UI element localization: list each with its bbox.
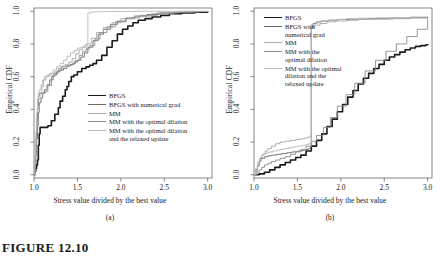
legend-label: MM with the optimal dilation and the rel… [285, 65, 342, 88]
legend-item: BFGS with numerical grad [88, 101, 187, 109]
figure-container: Empirical CDF 0.00.20.40.60.81.0 1.01.52… [0, 0, 440, 262]
legend-line-swatch [264, 17, 282, 18]
subcaption-a: (a) [0, 213, 220, 222]
legend-label: BFGS with numerical grad [109, 101, 180, 109]
legend-label: BFGS [109, 92, 126, 100]
legend-item: MM [88, 110, 187, 118]
legend-item: MM with the optimal dilation and the rel… [88, 127, 187, 143]
legend-label: BFGS with numerical grad [285, 23, 325, 39]
legend-item: BFGS with numerical grad [264, 23, 342, 39]
chart-panel-a: Empirical CDF 0.00.20.40.60.81.0 1.01.52… [0, 0, 220, 232]
legend-a: BFGSBFGS with numerical gradMMMM with th… [88, 92, 187, 144]
legend-line-swatch [88, 104, 106, 105]
legend-label: MM [109, 110, 121, 118]
legend-line-swatch [264, 26, 282, 27]
legend-line-swatch [264, 42, 282, 43]
legend-label: MM [285, 39, 297, 47]
legend-item: MM with the optimal dilation and the rel… [264, 65, 342, 88]
legend-label: MM with the optimal dilation [285, 48, 327, 64]
subcaption-b: (b) [220, 213, 440, 222]
legend-label: BFGS [285, 14, 302, 22]
figure-number: FIGURE 12.10 [2, 240, 89, 256]
x-axis-label-a: Stress value divided by the best value [0, 196, 220, 205]
legend-b: BFGSBFGS with numerical gradMMMM with th… [264, 14, 342, 89]
legend-line-swatch [264, 51, 282, 52]
legend-label: MM with the optimal dilation [109, 118, 187, 126]
chart-panel-b: Empirical CDF 0.00.20.40.60.81.0 1.01.52… [220, 0, 440, 232]
legend-line-swatch [88, 130, 106, 131]
legend-item: BFGS [88, 92, 187, 100]
legend-item: MM with the optimal dilation [264, 48, 342, 64]
legend-item: BFGS [264, 14, 342, 22]
legend-label: MM with the optimal dilation and the rel… [109, 127, 187, 143]
x-axis-label-b: Stress value divided by the best value [220, 196, 440, 205]
legend-line-swatch [88, 95, 106, 96]
legend-item: MM with the optimal dilation [88, 118, 187, 126]
legend-item: MM [264, 39, 342, 47]
legend-line-swatch [88, 121, 106, 122]
legend-line-swatch [88, 113, 106, 114]
legend-line-swatch [264, 68, 282, 69]
